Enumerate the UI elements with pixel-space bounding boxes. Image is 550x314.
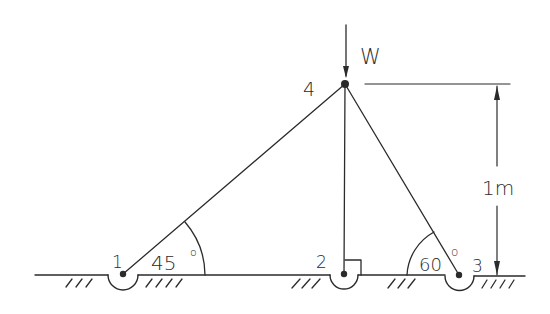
degree-symbol-60: o: [451, 245, 458, 259]
pin-support-3-icon: [445, 276, 474, 291]
joint-4: [341, 80, 349, 88]
joint-3: [456, 272, 462, 278]
pin-support-1-icon: [108, 275, 138, 290]
member-3-4: [345, 84, 459, 275]
degree-symbol-45: o: [190, 246, 197, 259]
node-label-3: 3: [472, 256, 483, 276]
load-arrow-icon: [343, 25, 349, 78]
dimension-label: 1m: [482, 176, 514, 200]
joint-2: [341, 271, 347, 277]
node-label-1: 1: [112, 252, 123, 272]
load-label: W: [360, 45, 381, 69]
member-2-4: [344, 84, 345, 274]
angle-label-60: 60: [419, 254, 442, 275]
angle-label-45: 45: [151, 251, 176, 275]
right-angle-marker-icon: [345, 260, 361, 275]
node-label-4: 4: [303, 78, 315, 100]
member-1-4: [123, 84, 345, 274]
node-label-2: 2: [316, 252, 327, 272]
truss-diagram: W 4 1 2 3 45 o 60 o 1m: [0, 0, 550, 314]
